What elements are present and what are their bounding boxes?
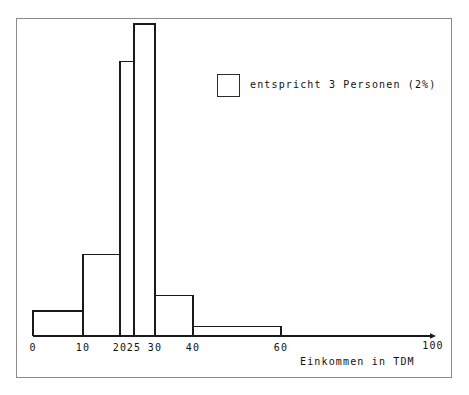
histogram-bar (155, 295, 193, 336)
chart-figure: 0102025304060100 entspricht 3 Personen (… (0, 0, 469, 395)
axis-ticks (33, 327, 281, 336)
histogram-bar (193, 327, 281, 336)
x-axis-title: Einkommen in TDM (300, 357, 415, 367)
legend-label: entspricht 3 Personen (2%) (250, 80, 436, 90)
histogram-plot (0, 0, 469, 395)
legend-swatch (217, 74, 240, 97)
histogram-bars (33, 24, 281, 336)
x-tick-label: 30 (148, 343, 162, 353)
histogram-bar (134, 24, 155, 336)
x-axis-arrow (430, 333, 436, 339)
x-tick-label: 60 (274, 343, 288, 353)
histogram-bar (83, 255, 120, 336)
histogram-bar (120, 61, 134, 336)
histogram-bar (33, 311, 83, 336)
x-tick-label: 0 (29, 343, 36, 353)
x-tick-label: 20 (113, 343, 127, 353)
x-tick-label: 40 (186, 343, 200, 353)
x-tick-label: 100 (422, 341, 444, 351)
x-tick-label: 25 (127, 343, 141, 353)
x-tick-label: 10 (76, 343, 90, 353)
